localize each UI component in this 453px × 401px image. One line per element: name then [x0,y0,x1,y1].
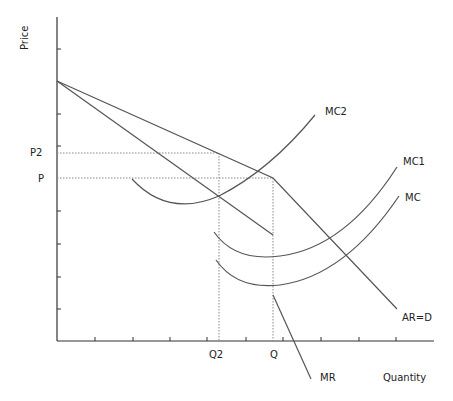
mr-curve-lower [273,295,311,379]
mr-curve-upper [57,81,273,235]
y-axis-label: Price [20,26,30,50]
q2-label: Q2 [209,350,223,360]
x-axis-label: Quantity [383,373,426,383]
mc-curve [216,196,399,286]
mr-label: MR [320,373,336,383]
mc1-label: MC1 [403,157,425,167]
ar-d-label: AR=D [402,313,432,323]
mc-label: MC [405,193,421,203]
mc2-label: MC2 [325,107,347,117]
p-label: P [38,174,44,184]
q-label: Q [270,350,278,360]
chart-plot [0,0,453,401]
kinked-demand-chart: Price Quantity P2 P Q2 Q MC2 MC1 MC AR=D… [0,0,453,401]
reference-lines [57,153,273,341]
mc2-curve [132,115,315,204]
p2-label: P2 [30,148,42,158]
